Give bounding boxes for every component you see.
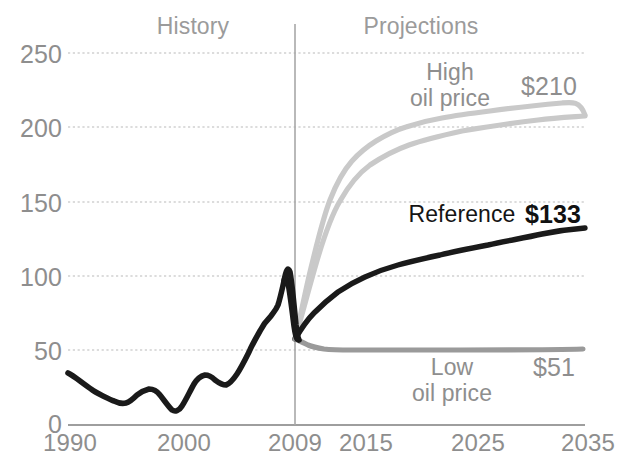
y-axis-tick-250: 250 [2, 40, 62, 68]
period-label-history: History [128, 14, 258, 40]
period-label-projections: Projections [336, 14, 506, 40]
series-line-history-2009-dip [284, 269, 299, 340]
x-axis-tick-2035: 2035 [552, 430, 624, 457]
chart-container: 250 200 150 100 50 0 1990 2000 2009 2015… [0, 0, 629, 473]
series-line-low-oil-price [295, 339, 583, 350]
value-label-high-oil-price: $210 [521, 72, 577, 100]
series-label-low-oil-price-line1: Low [404, 355, 500, 381]
x-axis-tick-2000: 2000 [148, 430, 220, 457]
series-line-history [68, 278, 297, 411]
x-axis-tick-2025: 2025 [442, 430, 514, 457]
y-axis-tick-50: 50 [2, 337, 62, 365]
series-label-high-oil-price-line1: High [395, 60, 505, 86]
series-line-reference [295, 228, 585, 339]
x-axis-tick-1990: 1990 [34, 430, 106, 457]
y-axis-tick-100: 100 [2, 263, 62, 291]
y-axis-tick-200: 200 [2, 114, 62, 142]
series-label-reference: Reference [392, 202, 532, 228]
value-label-reference: $133 [525, 200, 581, 228]
series-label-high-oil-price-line2: oil price [385, 86, 515, 112]
value-label-low-oil-price: $51 [533, 353, 575, 381]
x-axis-tick-2009: 2009 [259, 430, 331, 457]
series-label-low-oil-price-line2: oil price [384, 381, 520, 407]
y-axis-tick-150: 150 [2, 189, 62, 217]
chart-plot-area [0, 0, 629, 473]
x-axis-tick-2015: 2015 [330, 430, 402, 457]
